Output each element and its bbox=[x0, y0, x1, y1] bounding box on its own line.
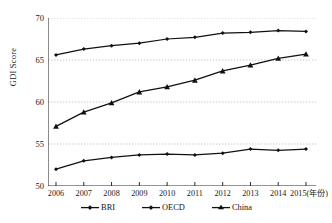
x-tick-label: 2008 bbox=[103, 189, 119, 198]
x-tick-label: 2010 bbox=[159, 189, 175, 198]
legend-item-bri[interactable]: BRI bbox=[80, 203, 115, 212]
x-axis-tick-labels: 2006200720082009201020112012201320142015… bbox=[48, 189, 332, 203]
chart-legend: BRIOECDChina bbox=[0, 203, 332, 212]
series-line-oecd bbox=[56, 149, 306, 169]
data-point-bri bbox=[248, 30, 252, 34]
data-point-oecd bbox=[110, 155, 114, 159]
data-point-oecd bbox=[221, 151, 225, 155]
data-point-bri bbox=[82, 47, 86, 51]
series-line-china bbox=[56, 54, 306, 126]
y-axis-tick-labels: 5055606570 bbox=[18, 0, 44, 223]
data-point-oecd bbox=[165, 152, 169, 156]
x-tick-label: 2006 bbox=[48, 189, 64, 198]
legend-marker-triangle-icon bbox=[211, 203, 231, 212]
legend-marker-diamond-icon bbox=[80, 203, 100, 212]
y-tick-label: 65 bbox=[22, 56, 44, 65]
plot-area bbox=[48, 18, 316, 186]
y-tick-label: 50 bbox=[22, 182, 44, 191]
gdi-score-line-chart: GDI Score 5055606570 2006200720082009201… bbox=[0, 0, 332, 223]
x-tick-label: 2014 bbox=[270, 189, 286, 198]
legend-label: China bbox=[232, 203, 252, 212]
plot-svg bbox=[48, 18, 316, 186]
legend-marker-diamond-icon bbox=[141, 203, 161, 212]
x-tick-label: 2007 bbox=[76, 189, 92, 198]
y-tick-label: 70 bbox=[22, 14, 44, 23]
data-point-oecd bbox=[248, 147, 252, 151]
y-axis-title: GDI Score bbox=[8, 32, 18, 102]
data-point-china bbox=[53, 123, 59, 128]
y-tick-label: 55 bbox=[22, 140, 44, 149]
x-tick-label: 2012 bbox=[214, 189, 230, 198]
legend-label: OECD bbox=[162, 203, 185, 212]
data-point-bri bbox=[193, 35, 197, 39]
data-point-oecd bbox=[54, 167, 58, 171]
data-point-bri bbox=[304, 29, 308, 33]
data-point-oecd bbox=[137, 153, 141, 157]
legend-item-china[interactable]: China bbox=[211, 203, 252, 212]
data-point-bri bbox=[137, 41, 141, 45]
data-point-bri bbox=[221, 31, 225, 35]
data-point-oecd bbox=[193, 153, 197, 157]
data-point-bri bbox=[165, 37, 169, 41]
data-point-bri bbox=[276, 29, 280, 33]
x-tick-label: 2011 bbox=[187, 189, 203, 198]
data-point-oecd bbox=[276, 148, 280, 152]
data-point-bri bbox=[54, 53, 58, 57]
x-tick-label: 2013 bbox=[242, 189, 258, 198]
data-point-oecd bbox=[304, 147, 308, 151]
y-tick-label: 60 bbox=[22, 98, 44, 107]
legend-label: BRI bbox=[101, 203, 115, 212]
legend-item-oecd[interactable]: OECD bbox=[141, 203, 185, 212]
x-tick-label: 2015(年份) bbox=[290, 189, 328, 198]
data-point-oecd bbox=[82, 159, 86, 163]
data-point-bri bbox=[110, 44, 114, 48]
x-tick-label: 2009 bbox=[131, 189, 147, 198]
series-line-bri bbox=[56, 31, 306, 55]
